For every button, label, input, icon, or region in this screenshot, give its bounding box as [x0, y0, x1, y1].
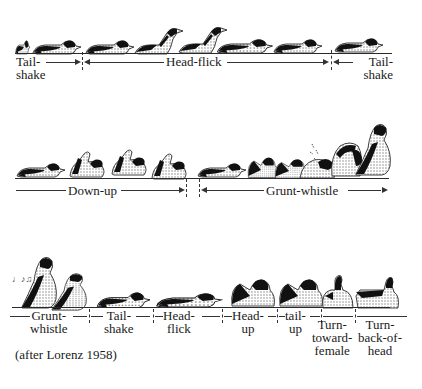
segment-divider [89, 309, 90, 323]
label-grunt-whistle: Grunt-whistle [266, 184, 338, 197]
duck-downup-2-icon [68, 150, 110, 180]
duck-gruntwhistle-6-icon [352, 122, 398, 178]
label-down-up: Down-up [68, 184, 117, 197]
duck-tailshake-2-icon [333, 29, 391, 53]
segment-divider [186, 179, 187, 197]
arrow-right-icon [179, 187, 185, 193]
water-line [15, 178, 389, 179]
segment-divider [331, 50, 332, 70]
duck-gruntwhistle-upright-2-icon [48, 272, 92, 312]
figure-credit: (after Lorenz 1958) [15, 347, 117, 363]
duck-tailshake-3-icon [95, 287, 151, 309]
segment-line [16, 190, 66, 191]
duck-downup-4-icon [150, 152, 192, 180]
label-tail-shake: Tail- shake [357, 55, 393, 81]
segment-line [10, 316, 30, 317]
segment-line [46, 62, 77, 63]
water-line [12, 307, 390, 308]
arrow-right-icon [382, 187, 388, 193]
label-grunt-whistle: Grunt- whistle [30, 309, 68, 335]
segment-line [268, 316, 276, 317]
label-head-flick: Head- flick [163, 309, 195, 335]
segment-divider [222, 309, 223, 323]
label-head-up: Head- up [232, 309, 264, 335]
duck-downup-3-icon [110, 148, 152, 178]
segment-divider [277, 309, 278, 323]
duck-headflick-4-icon [215, 26, 277, 54]
arrow-right-icon [75, 59, 81, 65]
duck-headflick-5-icon [272, 26, 328, 54]
duck-headup-icon [230, 276, 278, 310]
duck-turn-back-of-head-icon [354, 276, 402, 310]
label-turn-toward-female: Turn- toward- female [312, 318, 352, 357]
label-turn-back-of-head: Turn- back-of- head [358, 318, 402, 357]
segment-line [339, 62, 353, 63]
segment-divider [199, 179, 200, 197]
duck-headflick-6-icon [154, 290, 224, 308]
segment-line [121, 190, 181, 191]
segment-divider [355, 309, 356, 323]
arrow-right-icon [323, 59, 329, 65]
duck-gruntwhistle-1-icon [196, 160, 248, 178]
label-head-flick: Head-flick [166, 55, 222, 68]
segment-line [73, 316, 87, 317]
segment-line [227, 62, 325, 63]
segment-line [224, 316, 232, 317]
segment-line [136, 316, 150, 317]
duck-downup-1-icon [15, 160, 65, 178]
segment-line [206, 190, 264, 191]
segment-line [91, 316, 103, 317]
segment-divider [153, 309, 154, 323]
label-tail-shake: Tail- shake [104, 309, 134, 335]
segment-line [202, 316, 220, 317]
duck-turn-toward-female-icon [321, 274, 357, 310]
duck-headflick-1-icon [84, 27, 136, 55]
segment-divider [82, 52, 83, 70]
segment-line [88, 62, 164, 63]
label-tail-up: tail- up [285, 309, 306, 335]
label-tail-shake: Tail- shake [16, 55, 46, 81]
segment-line [155, 316, 163, 317]
segment-line [348, 190, 381, 191]
duck-tailup-icon [278, 276, 326, 310]
